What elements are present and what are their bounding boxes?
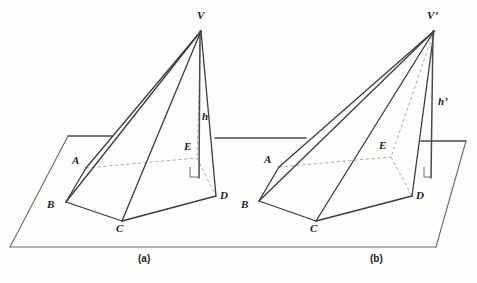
lateral-edge-V-B [259, 31, 434, 201]
altitude-segment-h [199, 31, 200, 178]
plane-right-edge [436, 141, 466, 247]
vertex-label-C: C [310, 223, 318, 234]
caption-a: (a) [138, 254, 150, 264]
vertex-label-V: V [197, 10, 205, 21]
vertex-label-A: A [264, 154, 272, 165]
base-edge-B-C [259, 201, 316, 221]
vertex-label-D: D [416, 190, 424, 201]
pyramid-b [259, 31, 434, 221]
caption-b: (b) [370, 254, 383, 264]
lateral-edge-V-C [122, 31, 201, 221]
base-edge-A-B [66, 168, 86, 202]
vertex-label-E: E [184, 141, 192, 152]
base-edge-E-D-hidden [391, 157, 412, 196]
vertex-label-D: D [220, 190, 228, 201]
figure-canvas: V A B C D E h V’ A B C D E h’ (a) (b) [0, 0, 477, 283]
base-plane [10, 136, 466, 247]
base-edge-A-E-hidden [86, 158, 197, 168]
base-edge-C-D [316, 196, 412, 221]
base-edge-B-C [66, 202, 122, 221]
vertex-label-C: C [116, 223, 124, 234]
lateral-edge-V-B [66, 31, 201, 202]
geometry-drawing [0, 0, 477, 283]
height-label-h: h [202, 111, 208, 122]
right-angle-marker [190, 167, 199, 177]
height-label-h-prime: h’ [438, 96, 448, 107]
pyramid-a [66, 31, 216, 221]
base-edge-C-D [122, 196, 216, 221]
vertex-label-E: E [379, 140, 387, 151]
vertex-label-B: B [241, 199, 249, 210]
vertex-label-V-prime: V’ [427, 10, 438, 21]
plane-left-edge [10, 136, 68, 247]
vertex-label-B: B [47, 199, 55, 210]
vertex-label-A: A [72, 155, 80, 166]
